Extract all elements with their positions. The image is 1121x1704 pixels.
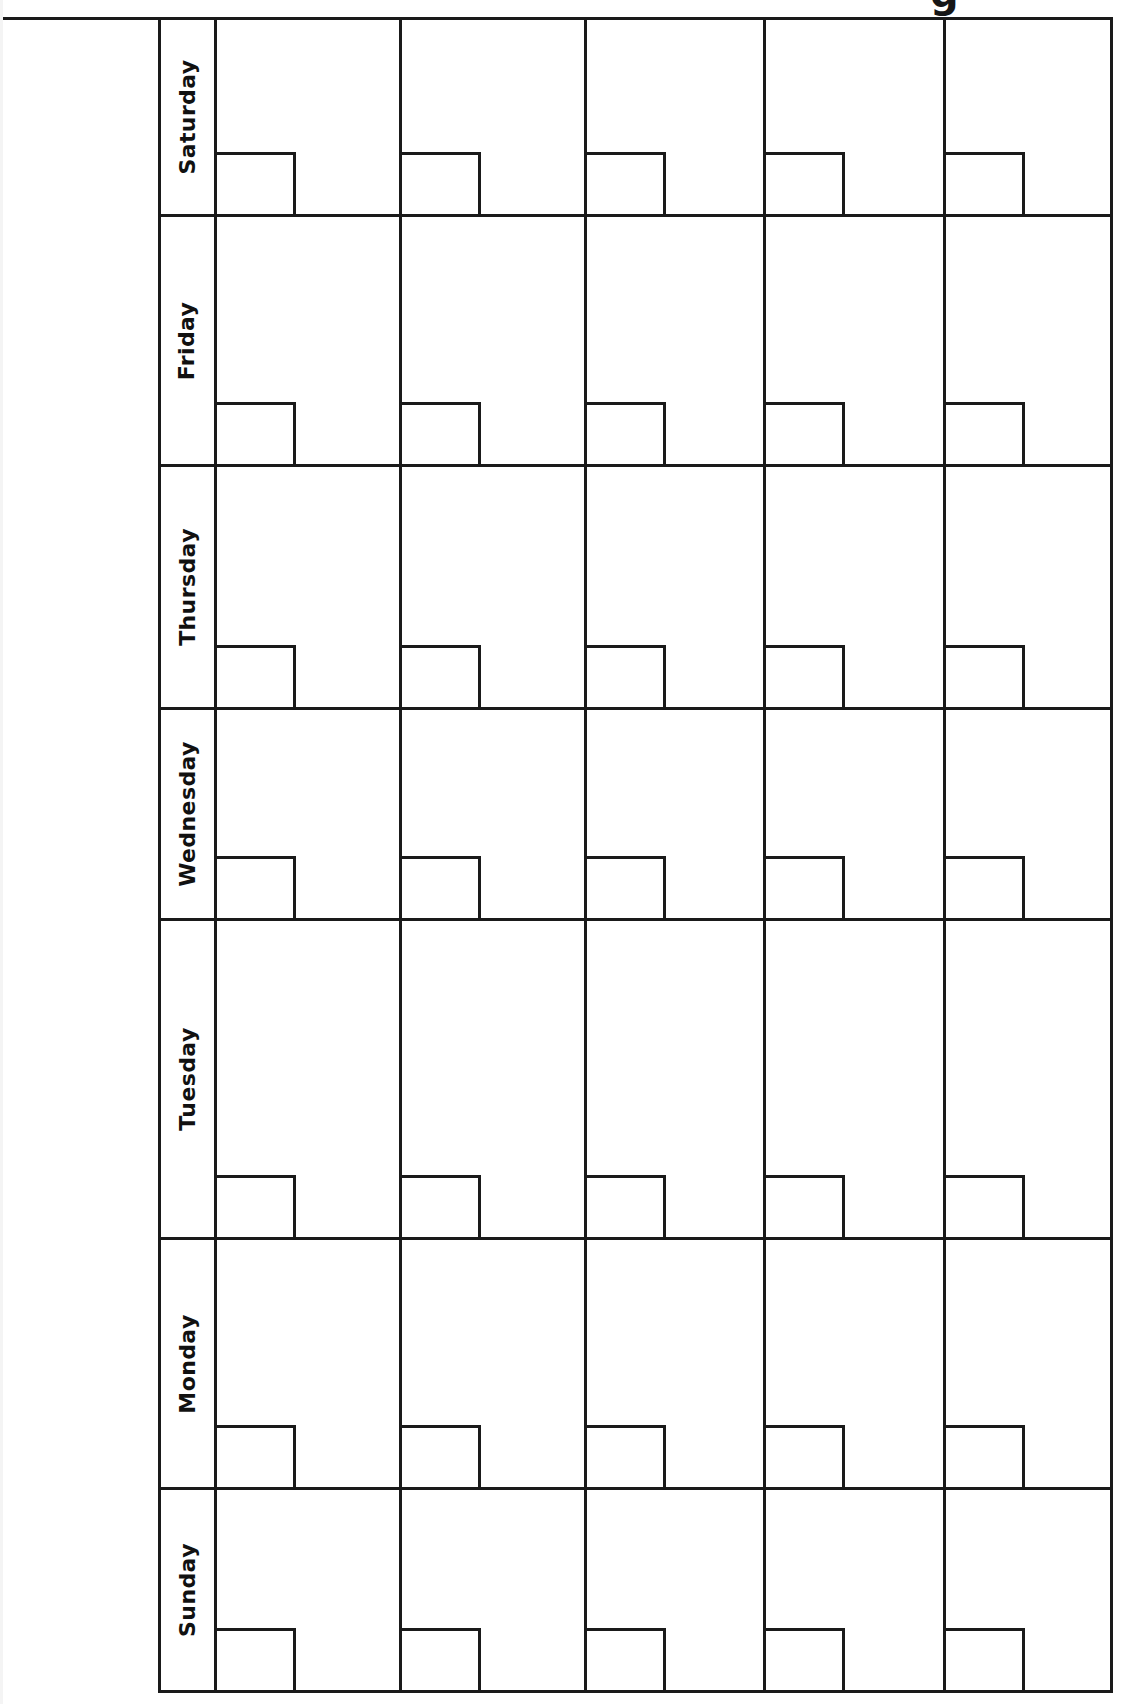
calendar-rows	[217, 20, 1110, 1690]
date-number-box[interactable]	[402, 1175, 481, 1237]
calendar-day-cell[interactable]	[217, 921, 402, 1237]
date-number-box[interactable]	[766, 645, 845, 707]
calendar-day-cell[interactable]	[587, 20, 766, 214]
date-number-box[interactable]	[946, 402, 1025, 464]
date-number-box[interactable]	[766, 1628, 845, 1690]
calendar-day-cell[interactable]	[587, 467, 766, 707]
calendar-day-cell[interactable]	[946, 467, 1110, 707]
calendar-day-cell[interactable]	[766, 710, 945, 918]
calendar-title-text: g	[930, 0, 959, 16]
date-number-box[interactable]	[217, 1175, 296, 1237]
date-number-box[interactable]	[217, 856, 296, 918]
calendar-week-row	[217, 710, 1110, 921]
calendar-day-cell[interactable]	[402, 217, 586, 464]
calendar-day-cell[interactable]	[587, 1490, 766, 1690]
calendar-day-cell[interactable]	[587, 217, 766, 464]
date-number-box[interactable]	[587, 152, 666, 214]
date-number-box[interactable]	[217, 1425, 296, 1487]
date-number-box[interactable]	[946, 1628, 1025, 1690]
calendar-day-cell[interactable]	[946, 20, 1110, 214]
date-number-box[interactable]	[217, 1628, 296, 1690]
date-number-box[interactable]	[587, 645, 666, 707]
calendar-day-cell[interactable]	[946, 921, 1110, 1237]
date-number-box[interactable]	[946, 856, 1025, 918]
date-number-box[interactable]	[766, 1425, 845, 1487]
date-number-box[interactable]	[946, 1425, 1025, 1487]
day-header-friday[interactable]: Friday	[161, 217, 214, 467]
calendar-week-row	[217, 217, 1110, 467]
calendar-week-row	[217, 1240, 1110, 1490]
date-number-box[interactable]	[946, 152, 1025, 214]
day-header-monday[interactable]: Monday	[161, 1240, 214, 1490]
day-header-wednesday[interactable]: Wednesday	[161, 710, 214, 921]
calendar-week-row	[217, 921, 1110, 1240]
day-header-label: Friday	[177, 301, 199, 380]
calendar-day-cell[interactable]	[217, 20, 402, 214]
date-number-box[interactable]	[766, 152, 845, 214]
calendar-day-cell[interactable]	[402, 1240, 586, 1487]
date-number-box[interactable]	[217, 402, 296, 464]
day-header-tuesday[interactable]: Tuesday	[161, 921, 214, 1240]
day-header-label: Thursday	[177, 528, 199, 646]
calendar-day-cell[interactable]	[217, 1490, 402, 1690]
day-name-column: Saturday Friday Thursday Wednesday Tuesd…	[161, 20, 217, 1690]
date-number-box[interactable]	[766, 856, 845, 918]
date-number-box[interactable]	[766, 1175, 845, 1237]
day-header-label: Tuesday	[177, 1027, 199, 1130]
date-number-box[interactable]	[402, 152, 481, 214]
date-number-box[interactable]	[587, 856, 666, 918]
calendar-day-cell[interactable]	[402, 921, 586, 1237]
day-header-sunday[interactable]: Sunday	[161, 1490, 214, 1690]
calendar-day-cell[interactable]	[217, 467, 402, 707]
date-number-box[interactable]	[217, 645, 296, 707]
calendar-day-cell[interactable]	[946, 1240, 1110, 1487]
date-number-box[interactable]	[402, 645, 481, 707]
day-header-label: Monday	[177, 1314, 199, 1413]
day-header-label: Wednesday	[177, 741, 199, 887]
date-number-box[interactable]	[587, 1628, 666, 1690]
calendar-day-cell[interactable]	[587, 710, 766, 918]
calendar-day-cell[interactable]	[587, 921, 766, 1237]
calendar-day-cell[interactable]	[766, 921, 945, 1237]
calendar-day-cell[interactable]	[402, 710, 586, 918]
day-header-label: Sunday	[177, 1543, 199, 1637]
day-header-thursday[interactable]: Thursday	[161, 467, 214, 710]
calendar-day-cell[interactable]	[766, 1240, 945, 1487]
calendar-day-cell[interactable]	[766, 1490, 945, 1690]
calendar-grid: Saturday Friday Thursday Wednesday Tuesd…	[158, 17, 1113, 1693]
date-number-box[interactable]	[217, 152, 296, 214]
date-number-box[interactable]	[402, 856, 481, 918]
date-number-box[interactable]	[587, 402, 666, 464]
calendar-week-row	[217, 20, 1110, 217]
date-number-box[interactable]	[946, 645, 1025, 707]
page-left-margin	[3, 17, 158, 1693]
day-header-label: Saturday	[177, 59, 199, 174]
calendar-title-clipped: g	[0, 0, 1121, 17]
date-number-box[interactable]	[402, 402, 481, 464]
calendar-day-cell[interactable]	[402, 20, 586, 214]
date-number-box[interactable]	[402, 1425, 481, 1487]
calendar-day-cell[interactable]	[766, 217, 945, 464]
calendar-day-cell[interactable]	[946, 710, 1110, 918]
day-header-saturday[interactable]: Saturday	[161, 20, 214, 217]
calendar-day-cell[interactable]	[402, 1490, 586, 1690]
calendar-week-row	[217, 467, 1110, 710]
calendar-day-cell[interactable]	[217, 710, 402, 918]
calendar-day-cell[interactable]	[946, 1490, 1110, 1690]
calendar-day-cell[interactable]	[217, 1240, 402, 1487]
date-number-box[interactable]	[946, 1175, 1025, 1237]
date-number-box[interactable]	[766, 402, 845, 464]
calendar-day-cell[interactable]	[402, 467, 586, 707]
calendar-day-cell[interactable]	[217, 217, 402, 464]
date-number-box[interactable]	[402, 1628, 481, 1690]
calendar-page: g Saturday Friday Thursday Wednesday Tue…	[0, 0, 1121, 1704]
date-number-box[interactable]	[587, 1425, 666, 1487]
calendar-day-cell[interactable]	[766, 467, 945, 707]
calendar-week-row	[217, 1490, 1110, 1690]
calendar-day-cell[interactable]	[587, 1240, 766, 1487]
calendar-day-cell[interactable]	[766, 20, 945, 214]
calendar-day-cell[interactable]	[946, 217, 1110, 464]
date-number-box[interactable]	[587, 1175, 666, 1237]
